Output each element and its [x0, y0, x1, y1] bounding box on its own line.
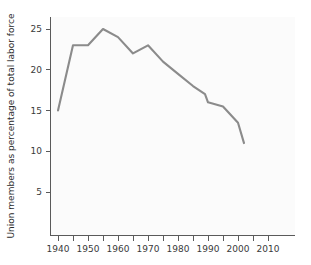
y-tick-label: 15	[31, 106, 42, 116]
x-tick-label: 1970	[137, 244, 160, 254]
y-tick-label: 5	[36, 187, 42, 197]
chart-figure: 510152025 194019501960197019801990200020…	[0, 0, 311, 265]
y-tick-label: 10	[31, 146, 43, 156]
line-chart: 510152025 194019501960197019801990200020…	[0, 0, 311, 265]
y-axis-ticks: 510152025	[31, 24, 51, 197]
x-tick-label: 2010	[257, 244, 280, 254]
x-axis-minor-ticks	[73, 236, 253, 241]
x-tick-label: 1960	[107, 244, 130, 254]
y-tick-label: 25	[31, 24, 42, 34]
x-tick-label: 1990	[197, 244, 220, 254]
x-tick-label: 2000	[227, 244, 250, 254]
x-tick-label: 1940	[47, 244, 70, 254]
y-axis-label: Union members as percentage of total lab…	[6, 13, 16, 238]
plot-area-background	[50, 17, 295, 236]
x-tick-label: 1950	[77, 244, 100, 254]
y-tick-label: 20	[31, 65, 43, 75]
x-tick-label: 1980	[167, 244, 190, 254]
